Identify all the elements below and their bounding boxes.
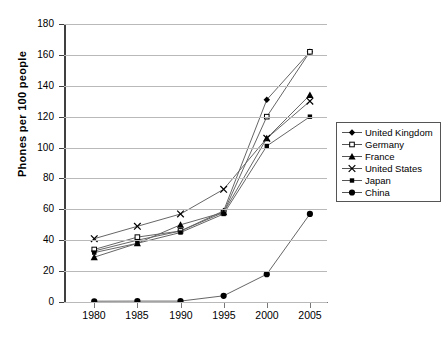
x-tick-label: 1980	[72, 309, 116, 321]
legend-label: Japan	[363, 175, 391, 186]
legend-label: United Kingdom	[363, 127, 433, 138]
chart-legend: United Kingdom Germany France United Sta…	[336, 122, 441, 202]
y-tick-label: 120	[24, 111, 54, 122]
grid-line	[64, 302, 327, 303]
legend-marker-cross-x-icon	[341, 163, 363, 174]
x-tick-mark	[267, 303, 268, 308]
x-tick-mark	[310, 303, 311, 308]
legend-label: United States	[363, 163, 422, 174]
x-tick-label: 2005	[288, 309, 332, 321]
grid-line	[64, 117, 327, 118]
series-united-states	[91, 98, 313, 242]
y-tick-label: 40	[24, 234, 54, 245]
x-tick-mark	[224, 303, 225, 308]
x-tick-label: 1990	[159, 309, 203, 321]
legend-marker-filled-diamond-icon	[341, 127, 363, 138]
grid-line	[64, 55, 327, 56]
grid-line	[64, 148, 327, 149]
series-china	[91, 211, 313, 302]
y-tick-label: 160	[24, 49, 54, 60]
grid-line	[64, 86, 327, 87]
legend-item-france[interactable]: France	[339, 150, 438, 162]
legend-item-china[interactable]: China	[339, 186, 438, 198]
legend-item-germany[interactable]: Germany	[339, 138, 438, 150]
x-tick-label: 1995	[202, 309, 246, 321]
y-tick-label: 180	[24, 18, 54, 29]
grid-line	[64, 271, 327, 272]
x-tick-mark	[94, 303, 95, 308]
legend-label: France	[363, 151, 395, 162]
y-tick-label: 100	[24, 142, 54, 153]
legend-marker-filled-square-icon	[341, 175, 363, 186]
chart-screenshot: Phones per 100 people 020406080100120140…	[0, 0, 445, 341]
x-tick-label: 2000	[245, 309, 289, 321]
legend-item-united-states[interactable]: United States	[339, 162, 438, 174]
y-tick-label: 60	[24, 203, 54, 214]
x-tick-label: 1985	[115, 309, 159, 321]
legend-marker-filled-triangle-icon	[341, 151, 363, 162]
y-tick-label: 140	[24, 80, 54, 91]
x-tick-mark	[181, 303, 182, 308]
y-tick-label: 0	[24, 296, 54, 307]
legend-marker-open-square-icon	[341, 139, 363, 150]
legend-label: Germany	[363, 139, 404, 150]
legend-marker-filled-circle-icon	[341, 187, 363, 198]
legend-item-united-kingdom[interactable]: United Kingdom	[339, 126, 438, 138]
y-tick-label: 20	[24, 265, 54, 276]
legend-label: China	[363, 187, 390, 198]
series-layer	[64, 24, 327, 302]
grid-line	[64, 178, 327, 179]
x-tick-mark	[137, 303, 138, 308]
plot-area	[64, 24, 327, 302]
grid-line	[64, 24, 327, 25]
grid-line	[64, 209, 327, 210]
grid-line	[64, 240, 327, 241]
series-japan	[92, 114, 312, 254]
y-tick-label: 80	[24, 172, 54, 183]
series-germany	[92, 50, 312, 252]
legend-item-japan[interactable]: Japan	[339, 174, 438, 186]
